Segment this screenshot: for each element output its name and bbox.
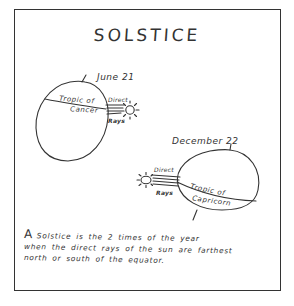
caption: ASolstice is the 2 times of the year whe… <box>24 229 279 263</box>
june-rays-label-top: Direct <box>108 96 128 103</box>
june-tropic-label-2: Cancer <box>70 105 99 114</box>
december-globe <box>137 144 259 220</box>
june-rays-label-bottom: Rays <box>108 117 125 124</box>
december-sun-icon <box>137 173 153 188</box>
december-rays-icon <box>152 175 180 186</box>
page-title: SOLSTICE <box>0 25 294 45</box>
june-sun-icon <box>124 101 140 119</box>
june-date-label: June 21 <box>97 72 134 82</box>
june-axis-icon <box>82 75 86 82</box>
caption-lead: A <box>24 227 33 241</box>
december-axis-bottom-icon <box>193 210 197 220</box>
december-rays-label-bottom: Rays <box>156 189 173 196</box>
december-date-label: December 22 <box>172 136 238 146</box>
december-rays-label-top: Direct <box>154 166 174 173</box>
